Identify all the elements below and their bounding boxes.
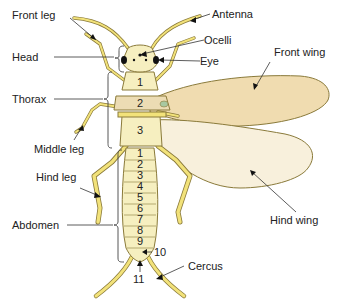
- label-ocelli: Ocelli: [204, 34, 232, 46]
- eye-arrow-icon: [158, 57, 164, 63]
- ocellus: [133, 59, 135, 61]
- front-wing: [150, 76, 329, 127]
- hind-wing: [150, 120, 313, 188]
- label-front-wing: Front wing: [274, 46, 325, 58]
- label-thorax: Thorax: [12, 93, 47, 105]
- thorax-brace: [104, 72, 112, 148]
- head: [122, 45, 158, 72]
- abdomen-number-9: 9: [137, 235, 143, 247]
- thorax-number-1: 1: [137, 76, 143, 88]
- label-hind-leg: Hind leg: [36, 171, 76, 183]
- thorax-number-3: 3: [137, 124, 143, 136]
- label-segment-11: 11: [133, 273, 144, 285]
- label-eye: Eye: [200, 55, 219, 67]
- label-abdomen: Abdomen: [12, 219, 59, 231]
- ocellus: [145, 59, 147, 61]
- label-cercus: Cercus: [188, 260, 223, 272]
- label-front-leg: Front leg: [12, 9, 55, 21]
- cercus-left: [96, 252, 134, 296]
- label-segment-10: 10: [154, 246, 166, 258]
- cercus-right: [146, 252, 184, 296]
- label-middle-leg: Middle leg: [34, 143, 84, 155]
- label-antenna: Antenna: [212, 8, 254, 20]
- label-head: Head: [12, 51, 38, 63]
- insect-anatomy-diagram: 1 2 3 1 2 3 4 5 6 7 8 9 Front leg Head T…: [0, 0, 344, 304]
- middle-leg-arrow-icon: [78, 125, 84, 131]
- thorax-number-2: 2: [137, 97, 143, 109]
- eye-left: [121, 56, 127, 64]
- label-hind-wing: Hind wing: [270, 214, 318, 226]
- wing-base-spot: [160, 101, 168, 107]
- eye-leader: [160, 60, 200, 61]
- thorax-band: [118, 112, 166, 117]
